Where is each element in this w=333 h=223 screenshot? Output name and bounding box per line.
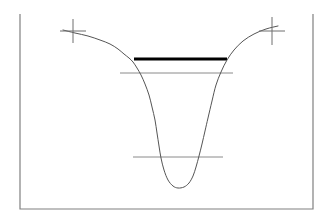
left-continuum-cross: [60, 19, 86, 43]
absorption-line-figure: [0, 0, 333, 223]
plot-frame: [20, 14, 313, 209]
right-continuum-cross: [259, 17, 285, 45]
cross-marker-group: [60, 17, 285, 45]
frame-border: [20, 14, 313, 209]
flux-profile-path: [63, 26, 278, 188]
figure-canvas: [0, 0, 333, 223]
flux-profile-curve: [63, 26, 278, 188]
level-marker-group: [120, 59, 233, 157]
